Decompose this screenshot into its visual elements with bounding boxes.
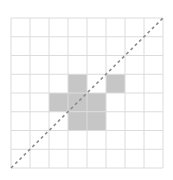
shaded-cell xyxy=(106,74,125,93)
shaded-cell xyxy=(49,93,68,112)
shaded-cell xyxy=(87,93,106,112)
shaded-cell xyxy=(68,112,87,131)
shaded-cell xyxy=(87,112,106,131)
shaded-cell xyxy=(68,74,87,93)
grid-diagram xyxy=(0,0,173,180)
